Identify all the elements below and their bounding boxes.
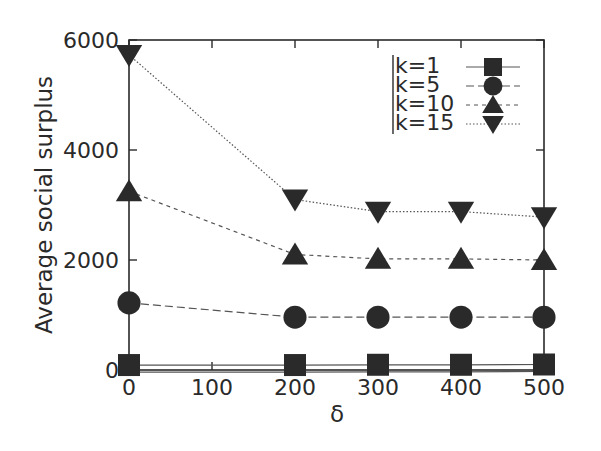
legend-label: k=15: [395, 110, 454, 135]
x-tick-label: 500: [523, 375, 565, 400]
x-tick-label: 200: [274, 375, 316, 400]
x-tick-label: 0: [122, 375, 136, 400]
y-tick-label: 0: [105, 358, 119, 383]
y-axis-label: Average social surplus: [31, 76, 57, 334]
x-axis-label: δ: [330, 401, 344, 427]
x-tick-label: 100: [191, 375, 233, 400]
y-tick-label: 2000: [63, 248, 119, 273]
series-k-1: [118, 354, 555, 377]
x-tick-label: 300: [357, 375, 399, 400]
y-tick-label: 4000: [63, 138, 119, 163]
y-tick-label: 6000: [63, 28, 119, 53]
x-axis-ticks: 0100200300400500: [122, 40, 565, 400]
x-tick-label: 400: [440, 375, 482, 400]
plot-frame: [129, 40, 544, 370]
series-k-5: [117, 291, 555, 328]
series-k-10: [116, 179, 557, 270]
legend-item: k=15: [395, 110, 520, 135]
line-chart: 0200040006000 0100200300400500 k=1k=5k=1…: [0, 0, 601, 451]
legend: k=1k=5k=10k=15: [393, 53, 520, 135]
